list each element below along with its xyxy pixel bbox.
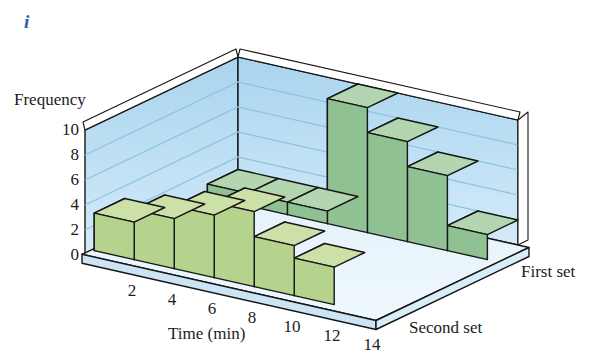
second-set-bar-front xyxy=(174,206,214,278)
x-tick-label: 12 xyxy=(310,327,354,344)
x-tick-label: 2 xyxy=(110,282,154,299)
x-tick-label: 6 xyxy=(190,300,234,317)
back-wall-right-rim xyxy=(518,112,528,245)
series-label-first-set: First set xyxy=(521,263,575,280)
chart-canvas xyxy=(0,0,607,363)
first-set-bar-front xyxy=(407,167,447,251)
first-set-bar-front xyxy=(367,133,407,242)
x-tick-label: 14 xyxy=(350,336,394,353)
y-tick-label: 6 xyxy=(35,171,79,188)
figure-3d-histogram: i Frequency Time (min) First set Second … xyxy=(0,0,607,363)
second-set-bar-front xyxy=(294,258,334,305)
second-set-bar-front xyxy=(254,237,294,296)
second-set-bar-front xyxy=(94,213,134,260)
y-tick-label: 0 xyxy=(35,246,79,263)
x-tick-label: 10 xyxy=(270,318,314,335)
figure-index-label: i xyxy=(24,12,29,31)
y-axis-title: Frequency xyxy=(14,91,86,108)
y-tick-label: 10 xyxy=(35,121,79,138)
second-set-bar-front xyxy=(214,203,254,287)
y-tick-label: 4 xyxy=(35,196,79,213)
x-axis-title: Time (min) xyxy=(168,325,245,342)
first-set-bar-front xyxy=(327,99,367,233)
x-tick-label: 4 xyxy=(150,291,194,308)
y-tick-label: 2 xyxy=(35,221,79,238)
series-label-second-set: Second set xyxy=(409,319,482,336)
y-tick-label: 8 xyxy=(35,146,79,163)
x-tick-label: 8 xyxy=(230,309,274,326)
